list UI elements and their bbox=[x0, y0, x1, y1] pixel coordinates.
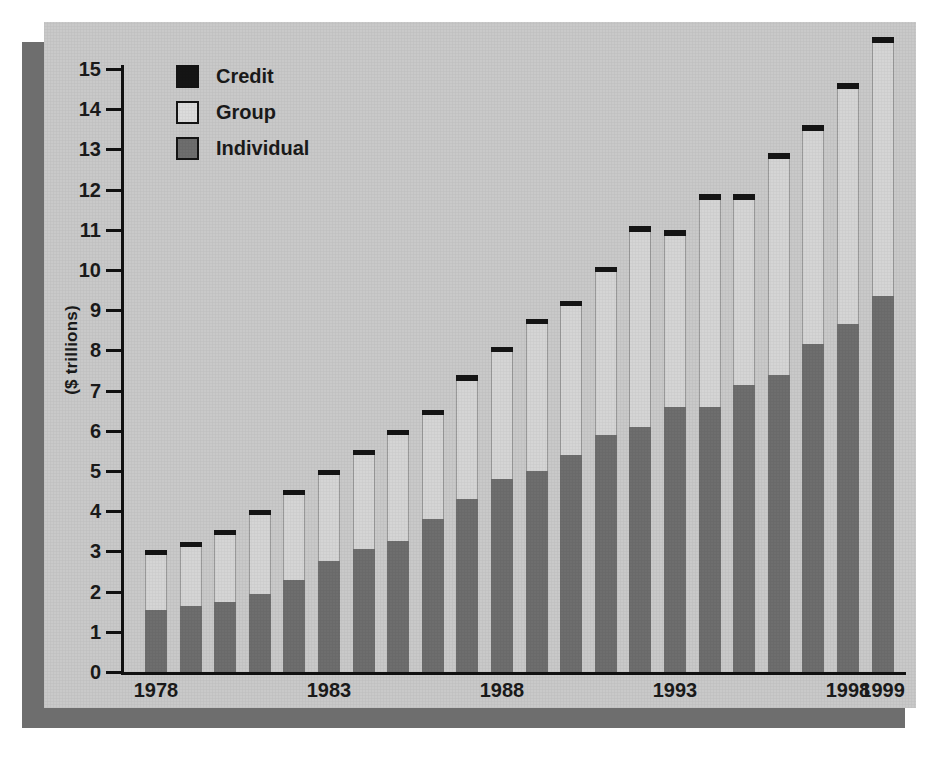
legend-label-group: Group bbox=[216, 102, 276, 122]
x-tick-label: 1999 bbox=[860, 679, 905, 702]
legend-label-credit: Credit bbox=[216, 66, 274, 86]
legend-item-individual: Individual bbox=[176, 130, 386, 166]
legend-swatch-group-icon bbox=[176, 101, 199, 124]
legend-swatch-individual-icon bbox=[176, 137, 199, 160]
x-tick-label: 1988 bbox=[480, 679, 525, 702]
x-axis-labels: 197819831988199319981999 bbox=[44, 22, 916, 708]
legend-label-individual: Individual bbox=[216, 138, 309, 158]
x-tick-label: 1978 bbox=[134, 679, 179, 702]
x-tick-label: 1983 bbox=[307, 679, 352, 702]
legend-item-credit: Credit bbox=[176, 58, 386, 94]
chart-legend: Credit Group Individual bbox=[176, 58, 386, 166]
chart-figure: 0123456789101112131415 ($ trillions) 197… bbox=[0, 0, 946, 757]
x-tick-label: 1993 bbox=[653, 679, 698, 702]
legend-swatch-credit-icon bbox=[176, 65, 199, 88]
legend-item-group: Group bbox=[176, 94, 386, 130]
chart-panel: 0123456789101112131415 ($ trillions) 197… bbox=[44, 22, 916, 708]
